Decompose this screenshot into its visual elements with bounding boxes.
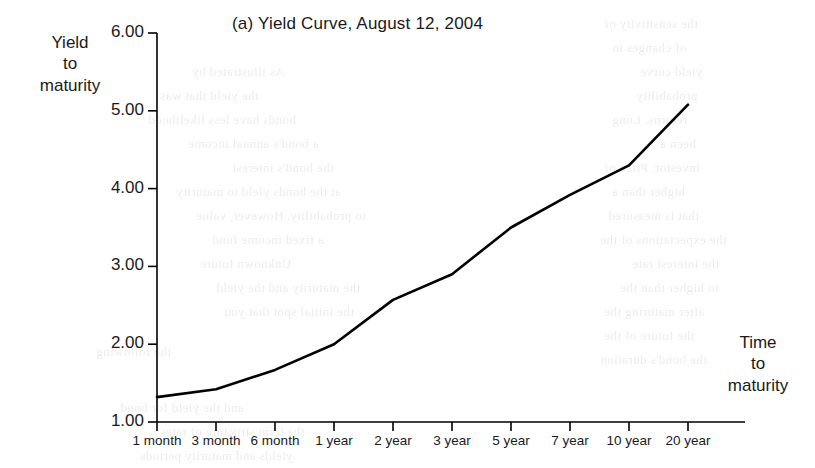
plot-area (0, 0, 815, 468)
yield-curve-figure: (a) Yield Curve, August 12, 2004 Yield t… (0, 0, 815, 468)
yield-curve-line (157, 105, 688, 398)
axis-ticks (148, 33, 688, 431)
axis-lines (157, 33, 745, 422)
